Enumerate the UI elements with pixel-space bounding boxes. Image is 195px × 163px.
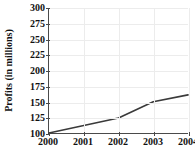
y-axis-tick — [46, 87, 50, 88]
y-axis-tick — [46, 55, 50, 56]
y-axis-tick — [46, 24, 50, 25]
y-axis-tick — [46, 103, 50, 104]
x-axis-tick-label: 2002 — [108, 136, 128, 148]
y-axis-tick-labels: 300275250225200175150125100 — [16, 8, 46, 134]
y-axis-tick — [46, 8, 50, 9]
x-axis-tick-labels: 20002001200220032004 — [48, 136, 188, 152]
x-axis-tick-label: 2004 — [178, 136, 195, 148]
y-axis-tick — [46, 118, 50, 119]
y-axis-title: Profits (in millions) — [0, 0, 16, 140]
y-axis-tick-label: 225 — [30, 50, 45, 60]
y-axis-title-text: Profits (in millions) — [3, 29, 14, 112]
y-axis-tick-label: 275 — [30, 19, 45, 29]
x-axis-tick-label: 2003 — [143, 136, 163, 148]
gridline-vertical — [84, 8, 85, 133]
y-axis-tick — [46, 71, 50, 72]
plot-area — [48, 8, 188, 134]
gridline-vertical — [119, 8, 120, 133]
y-axis-tick-label: 200 — [30, 66, 45, 76]
x-axis-tick-label: 2000 — [38, 136, 58, 148]
y-axis-tick-label: 250 — [30, 35, 45, 45]
gridline-vertical — [189, 8, 190, 133]
y-axis-tick-label: 175 — [30, 82, 45, 92]
y-axis-tick-label: 300 — [30, 3, 45, 13]
y-axis-tick — [46, 40, 50, 41]
y-axis-tick-label: 150 — [30, 98, 45, 108]
y-axis-tick-label: 125 — [30, 113, 45, 123]
x-axis-tick-label: 2001 — [73, 136, 93, 148]
profits-line-chart: Profits (in millions) 300275250225200175… — [0, 0, 195, 163]
gridline-vertical — [154, 8, 155, 133]
